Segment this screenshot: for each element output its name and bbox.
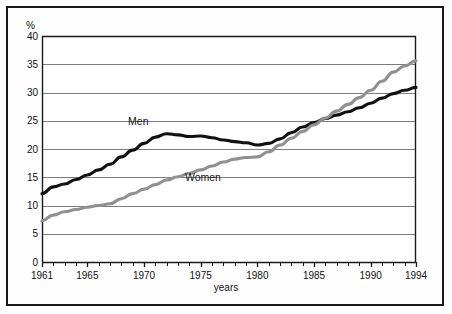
y-tick-label: 30 xyxy=(27,87,39,98)
y-tick-label: 15 xyxy=(27,172,39,183)
x-axis-tick-labels: 19611965197019751980198519901994 xyxy=(31,270,428,281)
y-axis-label: % xyxy=(26,20,35,31)
y-tick-label: 40 xyxy=(27,31,39,42)
x-tick-label: 1980 xyxy=(246,270,269,281)
line-chart: 0510152025303540 19611965197019751980198… xyxy=(0,0,452,314)
x-tick-label: 1965 xyxy=(76,270,99,281)
y-tick-label: 10 xyxy=(27,200,39,211)
x-tick-label: 1970 xyxy=(133,270,156,281)
chart-figure: 0510152025303540 19611965197019751980198… xyxy=(0,0,452,314)
y-tick-label: 20 xyxy=(27,144,39,155)
series-label-men: Men xyxy=(128,115,149,127)
y-tick-label: 25 xyxy=(27,115,39,126)
screenshot-root: 0510152025303540 19611965197019751980198… xyxy=(0,0,452,314)
y-tick-label: 0 xyxy=(32,257,38,268)
y-tick-label: 5 xyxy=(32,228,38,239)
y-axis-tick-labels: 0510152025303540 xyxy=(27,31,39,268)
x-tick-label: 1961 xyxy=(31,270,54,281)
y-tick-label: 35 xyxy=(27,59,39,70)
x-tick-label: 1975 xyxy=(190,270,213,281)
x-tick-label: 1985 xyxy=(303,270,326,281)
x-tick-label: 1994 xyxy=(405,270,428,281)
x-axis-label: years xyxy=(214,282,238,293)
series-label-women: Women xyxy=(185,171,221,183)
x-tick-label: 1990 xyxy=(360,270,383,281)
